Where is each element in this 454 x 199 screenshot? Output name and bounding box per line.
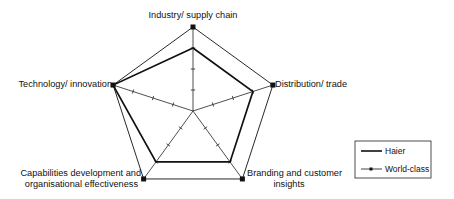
series-marker [141,176,146,181]
axis-label: Distribution/ trade [275,79,347,89]
legend: Haier World-class [355,141,431,178]
axis-label: Capabilities development and [20,168,141,178]
radar-chart: Industry/ supply chainDistribution/ trad… [0,0,454,199]
legend-haier-label: Haier [385,146,405,156]
series-marker [191,25,196,30]
axis-tick [167,144,171,147]
axis-tick [179,127,183,130]
axis-tick [216,144,220,147]
legend-worldclass-marker [370,168,373,171]
axis-label: Technology/ innovation [19,79,112,89]
axis-label: insights [273,179,305,189]
axis-label: Industry/ supply chain [149,10,238,20]
axis-label: Branding and customer [247,168,342,178]
axis-tick [204,127,208,130]
axis-label: organisational effectiveness [25,179,139,189]
legend-worldclass-label: World-class [385,164,429,174]
series-haier-line [113,48,253,162]
series-marker [240,176,245,181]
